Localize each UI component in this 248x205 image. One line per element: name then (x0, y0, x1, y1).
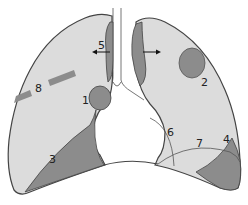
label-2: 2 (201, 76, 208, 89)
label-8: 8 (35, 82, 42, 95)
region-1-hilar-mass (89, 86, 111, 110)
label-4: 4 (223, 133, 230, 146)
lung-diagram: 1 2 3 4 5 6 7 8 (0, 0, 248, 205)
label-5: 5 (98, 39, 105, 52)
label-3: 3 (49, 153, 56, 166)
label-1: 1 (82, 94, 89, 107)
diaphragm-arc (104, 161, 158, 165)
label-6: 6 (167, 126, 174, 139)
region-2-nodule (179, 48, 205, 78)
label-7: 7 (196, 137, 203, 150)
lung-diagram-svg: 1 2 3 4 5 6 7 8 (0, 0, 248, 205)
